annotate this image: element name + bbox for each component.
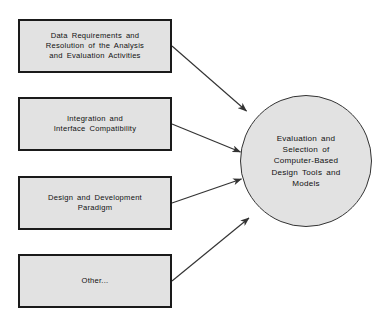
input-box-label: Other... — [77, 276, 114, 286]
arrow-box1-to-hub — [172, 46, 247, 111]
input-box-label: Integration and Interface Compatibility — [49, 114, 141, 134]
input-box-data-requirements[interactable]: Data Requirements and Resolution of the … — [18, 19, 172, 73]
hub-circle-label: Evaluation and Selection of Computer-Bas… — [263, 133, 348, 189]
input-box-label: Design and Development Paradigm — [43, 193, 147, 213]
input-box-design-paradigm[interactable]: Design and Development Paradigm — [18, 176, 172, 230]
arrow-box2-to-hub — [172, 124, 241, 152]
figure-diagram: Data Requirements and Resolution of the … — [0, 0, 383, 323]
input-box-integration[interactable]: Integration and Interface Compatibility — [18, 97, 172, 151]
input-box-label: Data Requirements and Resolution of the … — [41, 31, 149, 61]
arrow-box3-to-hub — [172, 179, 242, 203]
arrow-box4-to-hub — [172, 218, 249, 281]
figure-caption — [0, 316, 383, 323]
hub-circle-evaluation-selection[interactable]: Evaluation and Selection of Computer-Bas… — [240, 95, 372, 227]
input-box-other[interactable]: Other... — [18, 254, 172, 308]
